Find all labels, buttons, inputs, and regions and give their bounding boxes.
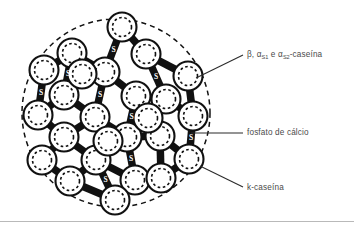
label-calcium-phosphate: fosfato de cálcio <box>247 129 309 137</box>
submicelle-particle <box>94 127 123 156</box>
submicelle-particle <box>68 60 97 89</box>
submicelle-particle <box>134 104 163 133</box>
submicelle-particle <box>50 123 79 152</box>
bridge-s-label: S <box>129 154 133 163</box>
label-kappa-casein: k-caseína <box>247 184 284 192</box>
bridge-s-label: S <box>66 69 70 78</box>
submicelle-particle <box>147 164 176 193</box>
leader-kcaseina <box>200 166 243 187</box>
bridge-s-label: S <box>189 133 193 142</box>
figure-page: SSSSSSSSS β, αS1 e αS2-caseína fosfato d… <box>0 0 354 229</box>
label-beta-prefix: β, α <box>247 50 262 59</box>
submicelle-particle <box>175 145 204 174</box>
label-beta-middle: e α <box>268 50 282 59</box>
submicelle-particle <box>30 56 59 85</box>
casein-micelle-figure: SSSSSSSSS <box>0 0 354 229</box>
bottom-divider-line <box>0 221 354 222</box>
submicelle-particle <box>179 102 208 131</box>
bottom-white-strip <box>0 222 354 229</box>
leader-beta <box>196 55 243 78</box>
bridge-s-label: S <box>129 112 133 121</box>
label-beta-suffix: -caseína <box>290 50 323 59</box>
bridge-s-label: S <box>154 72 158 81</box>
label-beta-alpha-s-casein: β, αS1 e αS2-caseína <box>247 51 322 59</box>
submicelle-particle <box>101 186 130 215</box>
bridge-s-label: S <box>111 45 115 54</box>
label-beta-sub1: S1 <box>262 54 269 60</box>
submicelle-particle <box>24 101 53 130</box>
submicelle-particle <box>174 62 203 91</box>
label-beta-sub2: S2 <box>283 54 290 60</box>
bridge-s-label: S <box>98 90 102 99</box>
bridge-s-label: S <box>39 88 43 97</box>
submicelle-particle <box>56 167 85 196</box>
submicelle-particle <box>28 146 57 175</box>
submicelle-particle <box>132 40 161 69</box>
submicelle-particle <box>108 13 137 42</box>
bridge-s-label: S <box>103 175 107 184</box>
